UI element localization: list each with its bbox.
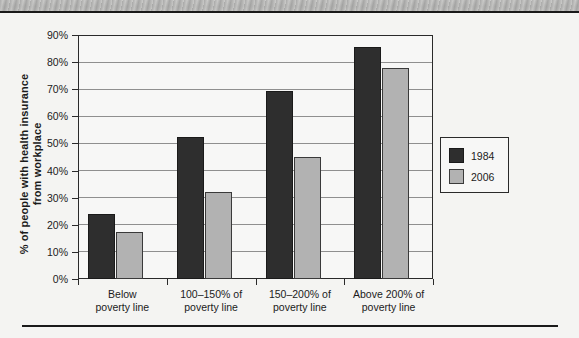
y-axis-tick-label: 50% bbox=[6, 137, 68, 149]
x-axis-tick-mark bbox=[256, 279, 257, 285]
bar-1984-3[interactable] bbox=[354, 47, 381, 279]
x-axis-label: 150–200% ofpoverty line bbox=[252, 288, 348, 314]
bar-2006-2[interactable] bbox=[294, 157, 321, 279]
legend-swatch-1984-icon bbox=[449, 148, 464, 163]
y-axis-tick-label: 0% bbox=[6, 273, 68, 285]
x-axis-label-line-2: poverty line bbox=[252, 301, 348, 314]
x-axis-label: 100–150% ofpoverty line bbox=[163, 288, 259, 314]
y-axis-tick-label: 30% bbox=[6, 192, 68, 204]
x-axis-label: Above 200% ofpoverty line bbox=[341, 288, 437, 314]
legend: 1984 2006 bbox=[440, 137, 509, 193]
y-axis-tick-label: 90% bbox=[6, 29, 68, 41]
bar-group bbox=[344, 35, 433, 279]
bar-chart: % of people with health insurance from w… bbox=[0, 13, 579, 323]
legend-item-2006[interactable]: 2006 bbox=[449, 166, 508, 187]
x-axis-label-line-2: poverty line bbox=[341, 301, 437, 314]
legend-label-2006: 2006 bbox=[471, 171, 494, 183]
bar-1984-0[interactable] bbox=[88, 214, 115, 279]
bar-2006-1[interactable] bbox=[205, 192, 232, 279]
bar-1984-2[interactable] bbox=[266, 91, 293, 279]
x-axis-label-line-2: poverty line bbox=[163, 301, 259, 314]
x-axis-tick-mark bbox=[78, 279, 79, 285]
bar-series-container bbox=[78, 35, 433, 279]
x-axis-label-line-1: Below bbox=[74, 288, 170, 301]
bar-group bbox=[78, 35, 167, 279]
bar-2006-3[interactable] bbox=[382, 68, 409, 279]
y-axis-tick-label: 70% bbox=[6, 83, 68, 95]
x-axis-label-line-1: 100–150% of bbox=[163, 288, 259, 301]
y-axis-tick-label: 80% bbox=[6, 56, 68, 68]
legend-item-1984[interactable]: 1984 bbox=[449, 145, 508, 166]
bar-group bbox=[256, 35, 345, 279]
chart-page: % of people with health insurance from w… bbox=[0, 0, 579, 338]
y-axis-tick-label: 60% bbox=[6, 110, 68, 122]
x-axis-label-line-2: poverty line bbox=[74, 301, 170, 314]
bar-1984-1[interactable] bbox=[177, 137, 204, 279]
y-axis-tick-label: 20% bbox=[6, 219, 68, 231]
x-axis-tick-mark bbox=[433, 279, 434, 285]
x-axis-tick-mark bbox=[167, 279, 168, 285]
x-axis-label-line-1: 150–200% of bbox=[252, 288, 348, 301]
bottom-divider-rule bbox=[22, 325, 558, 327]
bar-2006-0[interactable] bbox=[116, 232, 143, 279]
x-axis-tick-mark bbox=[344, 279, 345, 285]
bar-group bbox=[167, 35, 256, 279]
x-axis-label-line-1: Above 200% of bbox=[341, 288, 437, 301]
x-axis-label: Belowpoverty line bbox=[74, 288, 170, 314]
legend-swatch-2006-icon bbox=[449, 169, 464, 184]
scan-texture-band bbox=[0, 0, 579, 11]
y-axis-tick-label: 10% bbox=[6, 246, 68, 258]
legend-label-1984: 1984 bbox=[471, 150, 494, 162]
y-axis-tick-label: 40% bbox=[6, 165, 68, 177]
